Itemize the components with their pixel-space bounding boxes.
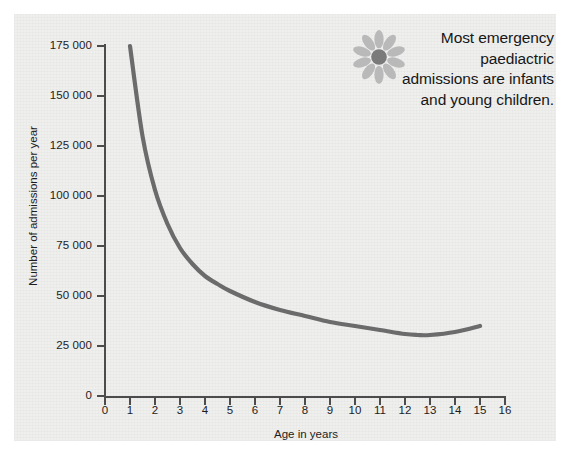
annotation-line-4: and young children. [352, 90, 554, 111]
annotation-callout: Most emergency paediactric admissions ar… [352, 28, 554, 110]
chart-page: 175 000 150 000 125 000 100 000 75 000 5… [0, 0, 570, 465]
flower-icon [352, 30, 406, 84]
